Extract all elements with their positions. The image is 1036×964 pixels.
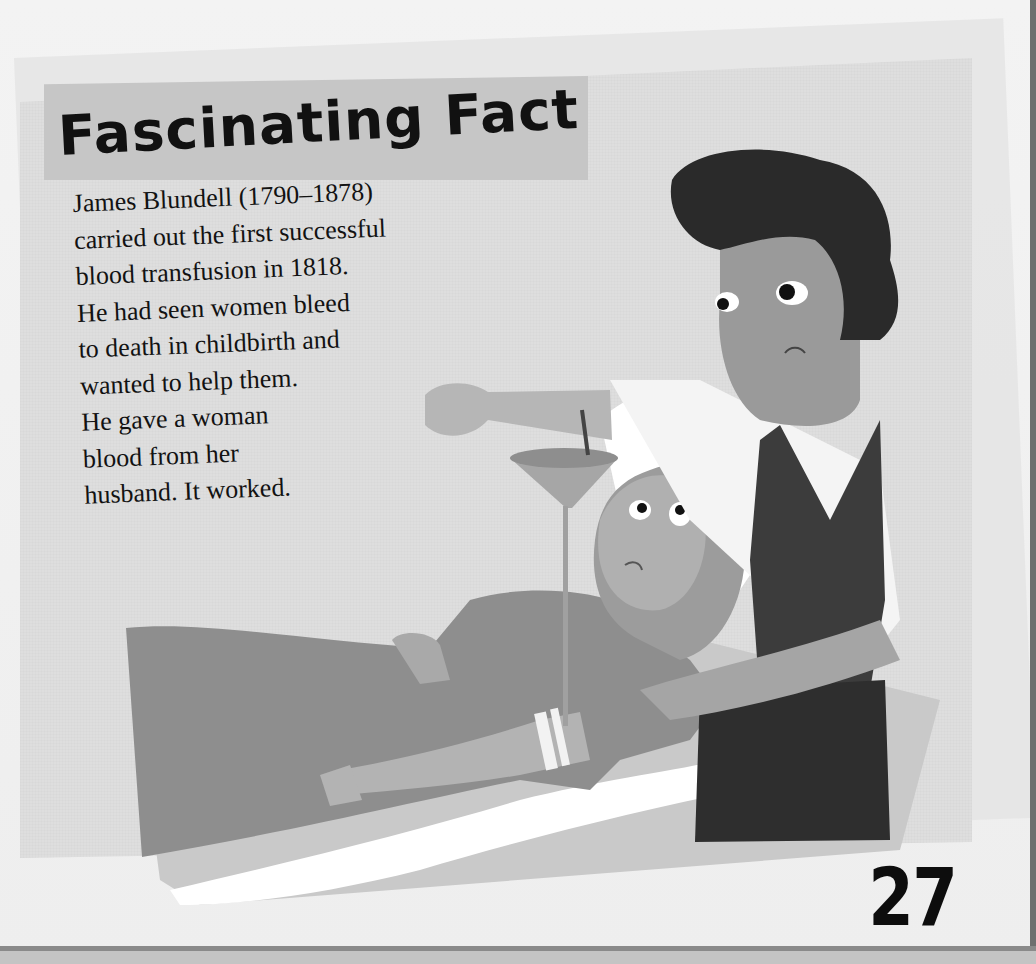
fact-text: James Blundell (1790–1878) carried out t… <box>72 167 555 514</box>
page-edge-right <box>1030 0 1036 964</box>
page-edge-bottom <box>0 946 1036 964</box>
book-page: Fascinating Fact James Blundell (1790–18… <box>0 0 1036 964</box>
page-number: 27 <box>868 858 956 938</box>
